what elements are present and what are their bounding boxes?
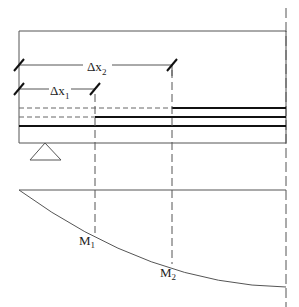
cutoff-lines bbox=[95, 70, 172, 264]
beam-diagram: Δx2 Δx1 M1 M2 bbox=[0, 0, 299, 307]
dx2-label: Δx2 bbox=[87, 59, 106, 77]
dx1-label: Δx1 bbox=[50, 83, 69, 101]
m2-label: M2 bbox=[160, 265, 176, 282]
moment-curve bbox=[19, 190, 286, 287]
support-icon bbox=[30, 143, 61, 160]
